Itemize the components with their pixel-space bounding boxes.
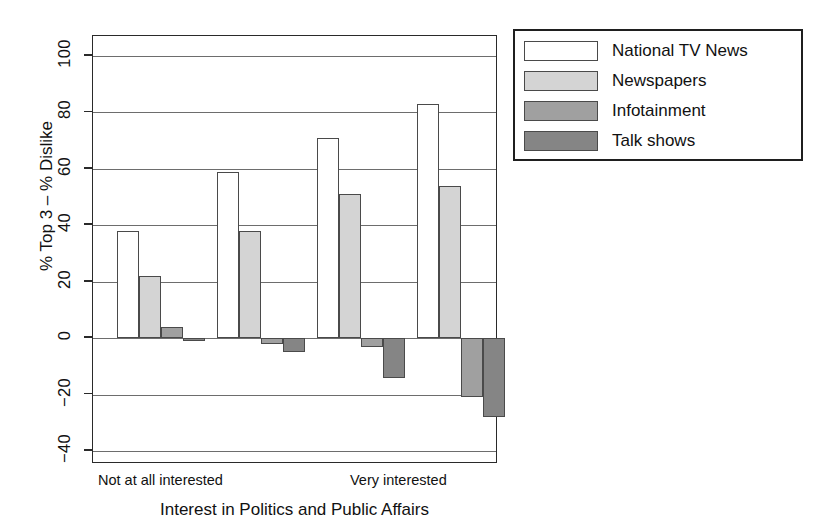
y-axis-tick-label-text: −20 — [55, 372, 74, 412]
y-axis-tick-label-text: 100 — [55, 34, 74, 74]
bar — [283, 338, 305, 352]
gridline — [93, 395, 496, 396]
legend-label: National TV News — [612, 41, 748, 61]
legend-item: National TV News — [524, 37, 796, 64]
legend-item: Newspapers — [524, 67, 796, 94]
legend: National TV NewsNewspapersInfotainmentTa… — [513, 29, 803, 161]
bar-chart-figure: % Top 3 – % Dislike 100806040200−20−40 N… — [0, 0, 817, 528]
bar — [483, 338, 505, 417]
gridline — [93, 56, 496, 57]
legend-label: Talk shows — [612, 131, 695, 151]
x-category-label-not-at-all-interested: Not at all interested — [98, 472, 223, 488]
legend-label: Newspapers — [612, 71, 707, 91]
bar — [339, 194, 361, 338]
y-axis-tick-label: −40 — [44, 439, 84, 461]
x-category-label-very-interested: Very interested — [350, 472, 447, 488]
bar — [183, 338, 205, 341]
x-axis-title: Interest in Politics and Public Affairs — [92, 500, 497, 520]
bar — [383, 338, 405, 378]
legend-item: Talk shows — [524, 127, 796, 154]
bar — [217, 172, 239, 338]
y-axis-tick-label: 100 — [44, 44, 84, 66]
bar — [439, 186, 461, 338]
legend-swatch — [524, 71, 598, 91]
bar — [161, 327, 183, 338]
y-axis-tick-label-text: 0 — [55, 316, 74, 356]
y-axis-tick-label: 20 — [44, 270, 84, 292]
y-axis-tick-label-text: 40 — [55, 203, 74, 243]
legend-label: Infotainment — [612, 101, 706, 121]
y-axis-tick-label: 40 — [44, 213, 84, 235]
bar — [317, 138, 339, 338]
legend-swatch — [524, 41, 598, 61]
bar — [461, 338, 483, 397]
y-axis-tick-label-text: 80 — [55, 90, 74, 130]
bar — [261, 338, 283, 344]
y-axis-tick-label: 80 — [44, 100, 84, 122]
bar — [239, 231, 261, 338]
legend-item: Infotainment — [524, 97, 796, 124]
y-axis-tick-label-text: 20 — [55, 259, 74, 299]
bar — [117, 231, 139, 338]
y-axis-tick-label: −20 — [44, 383, 84, 405]
legend-swatch — [524, 131, 598, 151]
bar — [417, 104, 439, 338]
bar — [139, 276, 161, 338]
gridline — [93, 451, 496, 452]
y-axis-tick-label-text: −40 — [55, 429, 74, 469]
y-axis-tick-label: 0 — [44, 326, 84, 348]
y-axis-tick-label-text: 60 — [55, 146, 74, 186]
y-axis-tick-label: 60 — [44, 157, 84, 179]
plot-area — [92, 35, 497, 463]
bar — [361, 338, 383, 346]
legend-swatch — [524, 101, 598, 121]
